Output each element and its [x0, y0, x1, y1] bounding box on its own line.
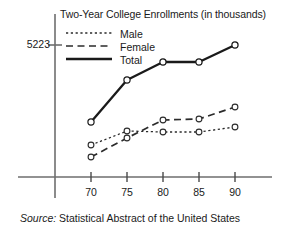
x-axis-tick-label-85: 85 — [187, 186, 211, 198]
series-total — [88, 42, 238, 125]
x-axis-tick-label-80: 80 — [151, 186, 175, 198]
legend-label-male: Male — [120, 28, 143, 40]
x-axis-tick-label-70: 70 — [79, 186, 103, 198]
legend-swatches — [66, 33, 112, 59]
source-note: Source: Statistical Abstract of the Unit… — [20, 212, 240, 224]
source-note-text: Statistical Abstract of the United State… — [59, 212, 240, 224]
chart-plot-area — [0, 0, 286, 236]
series-male — [88, 124, 238, 148]
chart-figure: Two-Year College Enrollments (in thousan… — [0, 0, 286, 236]
legend-label-female: Female — [120, 41, 155, 53]
x-axis-tick-label-75: 75 — [115, 186, 139, 198]
legend-label-total: Total — [120, 54, 142, 66]
chart-title: Two-Year College Enrollments (in thousan… — [60, 8, 266, 20]
source-note-prefix: Source: — [20, 212, 56, 224]
x-axis-tick-label-90: 90 — [223, 186, 247, 198]
y-axis-tick-label: 5223 — [18, 38, 50, 50]
